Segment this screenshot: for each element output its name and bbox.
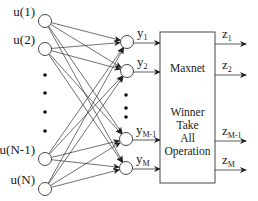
output-arrow: z1 <box>215 26 246 44</box>
winner-take-all-text: Take <box>176 119 198 131</box>
maxnet-title: Maxnet <box>170 62 206 74</box>
maxnet-network-diagram: u(1)u(2)u(N-1)u(N) y1y2yM-1yM MaxnetWinn… <box>0 0 258 201</box>
hidden-label: y1 <box>137 25 148 42</box>
hidden-node-circle <box>120 162 133 175</box>
output-label: z2 <box>222 57 232 74</box>
winner-take-all-text: All <box>180 132 195 144</box>
hidden-label-subscript: 2 <box>144 62 148 71</box>
output-label-subscript: M-1 <box>228 131 242 140</box>
input-node: u(N-1) <box>0 142 52 166</box>
output-arrow: zM <box>215 152 246 170</box>
output-label-subscript: 2 <box>228 65 232 74</box>
input-node-circle <box>39 153 52 166</box>
winner-take-all-text: Winner <box>170 106 204 118</box>
hidden-label: y2 <box>137 54 148 71</box>
output-label: zM-1 <box>222 123 242 140</box>
input-node: u(1) <box>13 4 51 28</box>
hidden-node-circle <box>120 133 133 146</box>
winner-take-all-text: Operation <box>165 145 211 158</box>
input-node-circle <box>39 183 52 196</box>
output-arrow: zM-1 <box>215 123 246 141</box>
input-layer: u(1)u(2)u(N-1)u(N) <box>0 4 52 196</box>
output-arrow: z2 <box>215 57 246 75</box>
input-node-circle <box>39 15 52 28</box>
hidden-label-subscript: M <box>143 159 150 168</box>
input-label: u(N-1) <box>0 142 35 157</box>
connection-line <box>51 141 119 158</box>
input-node: u(2) <box>13 32 51 56</box>
connection-line <box>49 77 123 184</box>
ellipsis-dot <box>43 91 47 95</box>
connection-line <box>51 160 119 168</box>
output-layer: z1z2zM-1zM <box>215 26 246 170</box>
input-label: u(N) <box>10 172 35 187</box>
ellipsis-dot <box>43 129 47 133</box>
hidden-node-circle <box>121 36 134 49</box>
connection-line <box>51 24 121 67</box>
full-connection-lines <box>48 23 123 188</box>
connection-line <box>48 48 123 183</box>
hidden-node: y2 <box>121 54 161 78</box>
output-label: z1 <box>222 26 232 43</box>
hidden-label-subscript: M-1 <box>143 130 157 139</box>
ellipsis-dot <box>43 110 47 114</box>
maxnet-box: MaxnetWinnerTakeAllOperation <box>160 32 215 183</box>
ellipsis-dot <box>124 106 128 110</box>
output-label-subscript: M <box>228 160 235 169</box>
output-label-subscript: 1 <box>228 34 232 43</box>
hidden-layer: y1y2yM-1yM <box>120 25 161 175</box>
hidden-label-subscript: 1 <box>144 33 148 42</box>
ellipsis-dot <box>124 93 128 97</box>
input-label: u(2) <box>13 32 35 47</box>
input-node-circle <box>39 43 52 56</box>
input-label: u(1) <box>13 4 35 19</box>
hidden-node: yM <box>120 151 161 175</box>
hidden-node: yM-1 <box>120 122 161 146</box>
hidden-node: y1 <box>121 25 161 49</box>
hidden-node-circle <box>121 65 134 78</box>
hidden-label: yM-1 <box>136 122 156 139</box>
output-label: zM <box>222 152 235 169</box>
input-node: u(N) <box>10 172 51 196</box>
ellipsis-dots <box>43 73 128 133</box>
hidden-label: yM <box>136 151 150 168</box>
ellipsis-dot <box>124 115 128 119</box>
connection-line <box>49 48 123 154</box>
ellipsis-dot <box>43 73 47 77</box>
